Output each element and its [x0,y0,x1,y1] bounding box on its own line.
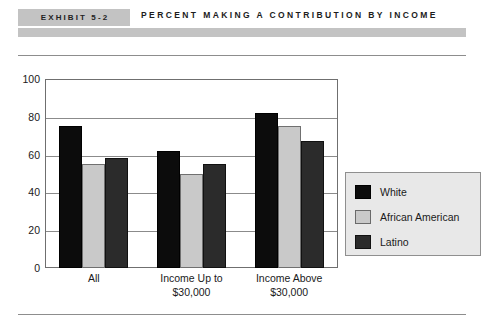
exhibit-number-badge: EXHIBIT 5-2 [18,9,130,26]
bar-african-american [278,126,301,268]
exhibit-number-label: EXHIBIT 5-2 [39,13,109,22]
y-axis-tick-label: 80 [2,111,40,122]
bar-latino [301,141,324,268]
chart-legend: WhiteAfrican AmericanLatino [345,172,481,256]
bar-latino [105,158,128,268]
y-axis-tick-label: 100 [2,74,40,85]
legend-item-african-american: African American [355,210,459,224]
bar-series-layer [45,79,338,268]
bar-african-american [82,164,105,268]
x-axis-group-label: Income Above$30,000 [240,272,338,299]
bar-latino [203,164,226,268]
legend-swatch-icon [355,235,371,249]
x-axis-group-label: All [45,272,143,286]
legend-swatch-icon [355,210,371,224]
y-axis-tick-label: 60 [2,149,40,160]
exhibit-header: EXHIBIT 5-2 PERCENT MAKING A CONTRIBUTIO… [0,0,486,46]
bar-white [59,126,82,268]
y-axis-tick-label: 40 [2,187,40,198]
bar-white [157,151,180,268]
footer-divider-rule [18,314,466,315]
bar-white [255,113,278,268]
legend-label: Latino [380,236,409,248]
x-axis-group-label: Income Up to$30,000 [143,272,241,299]
y-axis-tick-labels: 100806040200 [0,79,40,269]
legend-label: White [380,186,407,198]
bar-african-american [180,174,203,269]
header-gray-band [18,28,466,37]
x-axis-category-labels: AllIncome Up to$30,000Income Above$30,00… [45,272,338,312]
header-divider-rule [18,55,466,56]
legend-item-white: White [355,185,407,199]
legend-item-latino: Latino [355,235,409,249]
legend-swatch-icon [355,185,371,199]
y-axis-tick-label: 20 [2,225,40,236]
y-axis-tick-label: 0 [2,263,40,274]
legend-label: African American [380,211,459,223]
exhibit-title: PERCENT MAKING A CONTRIBUTION BY INCOME [141,8,471,22]
